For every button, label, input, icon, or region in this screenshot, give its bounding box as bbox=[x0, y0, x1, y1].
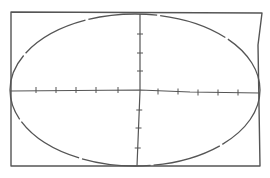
ellipse-diagram bbox=[0, 0, 270, 178]
horizontal-axis bbox=[10, 87, 260, 96]
diagram-canvas bbox=[0, 0, 270, 178]
